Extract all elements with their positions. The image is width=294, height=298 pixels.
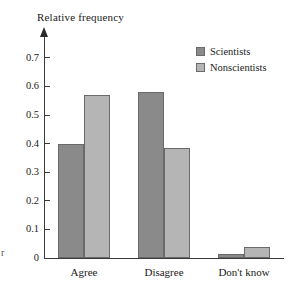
y-axis-tick-mark — [45, 86, 50, 87]
legend-swatch-nonscientists — [196, 63, 205, 72]
y-axis-line — [44, 33, 45, 259]
bar-scientists-agree[interactable] — [58, 144, 84, 258]
y-axis-tick-label: 0.4 — [0, 137, 39, 150]
y-axis-tick-label: 0.3 — [0, 165, 39, 178]
legend-label-nonscientists: Nonscientists — [210, 62, 267, 73]
legend-swatch-scientists — [196, 47, 205, 56]
y-axis-tick-mark — [45, 57, 50, 58]
x-axis-label-disagree: Disagree — [126, 266, 202, 278]
bar-nonscientists-don-t-know[interactable] — [244, 247, 270, 258]
y-axis-tick-label: 0.5 — [0, 108, 39, 121]
relative-frequency-bar-chart: Relative frequency 00.10.20.30.40.50.60.… — [0, 0, 294, 298]
legend: Scientists Nonscientists — [196, 44, 267, 76]
y-axis-title: Relative frequency — [37, 11, 124, 23]
y-axis-tick-label: 0.6 — [0, 79, 39, 92]
y-axis-tick-label: 0.7 — [0, 51, 39, 64]
x-axis-label-don-t-know: Don't know — [206, 266, 282, 278]
bar-scientists-disagree[interactable] — [138, 92, 164, 258]
legend-item-nonscientists[interactable]: Nonscientists — [196, 60, 267, 74]
y-axis-tick-label: 0.2 — [0, 194, 39, 207]
y-axis-arrow-icon — [40, 27, 48, 37]
y-axis-tick-mark — [45, 229, 50, 230]
legend-item-scientists[interactable]: Scientists — [196, 44, 267, 58]
y-axis-tick-label: 0 — [0, 251, 39, 264]
x-axis-line — [44, 258, 284, 259]
y-axis-tick-mark — [45, 200, 50, 201]
y-axis-tick-mark — [45, 143, 50, 144]
bar-nonscientists-disagree[interactable] — [164, 148, 190, 258]
bar-nonscientists-agree[interactable] — [84, 95, 110, 258]
y-axis-tick-mark — [45, 258, 50, 259]
y-axis-tick-label: 0.1 — [0, 222, 39, 235]
y-axis-tick-mark — [45, 172, 50, 173]
y-axis-tick-mark — [45, 115, 50, 116]
x-axis-label-agree: Agree — [46, 266, 122, 278]
bar-scientists-don-t-know[interactable] — [218, 254, 244, 258]
margin-note: r — [1, 247, 4, 258]
legend-label-scientists: Scientists — [210, 46, 250, 57]
